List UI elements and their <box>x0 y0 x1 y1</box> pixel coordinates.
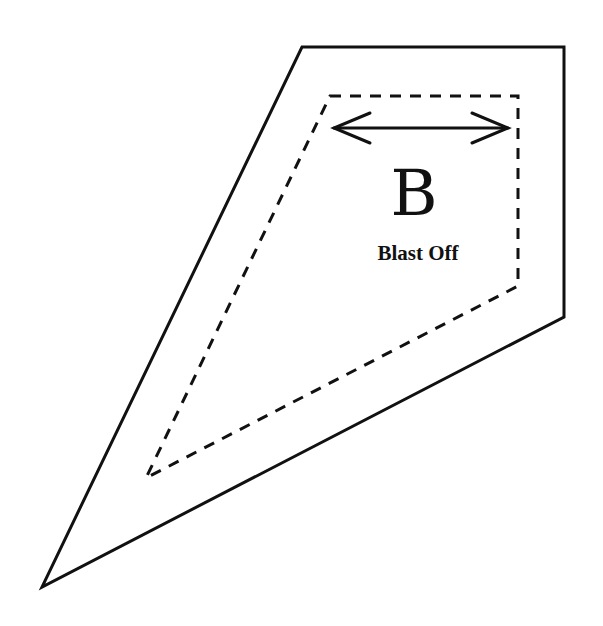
quilt-template-diagram: B Blast Off <box>0 0 603 626</box>
piece-name: Blast Off <box>377 241 459 265</box>
piece-letter: B <box>390 156 437 230</box>
grain-arrow-icon <box>334 113 508 143</box>
inner-seam-line <box>146 96 518 478</box>
